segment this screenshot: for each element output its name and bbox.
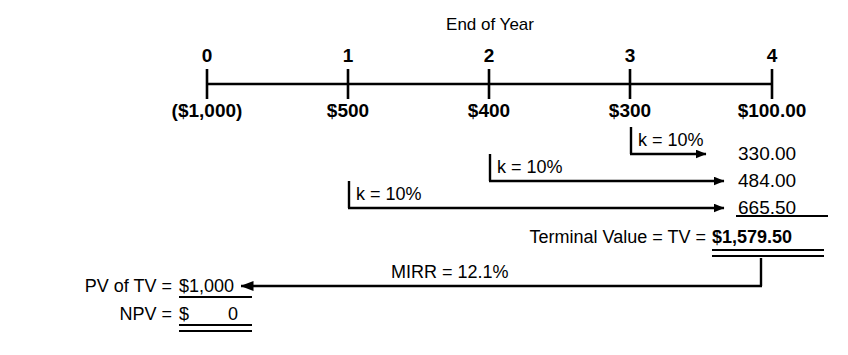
- npv-currency-symbol: $: [179, 305, 189, 323]
- year-label-3: 3: [625, 46, 636, 65]
- diagram-lines-layer: [0, 0, 848, 355]
- terminal-value-double-underline: [712, 250, 824, 256]
- cash-flow-year-0: ($1,000): [172, 101, 243, 120]
- year-label-1: 1: [343, 46, 354, 65]
- cash-flow-year-4: $100.00: [738, 101, 807, 120]
- mirr-label: MIRR = 12.1%: [391, 263, 509, 281]
- timeline-axis: [207, 69, 772, 99]
- rate-label-year-2: k = 10%: [497, 158, 563, 176]
- rate-label-year-3: k = 10%: [638, 131, 704, 149]
- year-label-2: 2: [484, 46, 495, 65]
- mirr-timeline-diagram: End of Year 0 1 2 3 4 ($1,000) $500 $400…: [0, 0, 848, 355]
- cash-flow-year-2: $400: [468, 101, 510, 120]
- terminal-value-label: Terminal Value = TV =: [530, 228, 706, 246]
- npv-double-underline: [179, 325, 252, 331]
- rate-label-year-1: k = 10%: [356, 185, 422, 203]
- npv-value: 0: [228, 305, 238, 323]
- year-label-4: 4: [767, 46, 778, 65]
- pv-of-tv-value: $1,000: [179, 277, 234, 295]
- future-value-from-year-3: 330.00: [738, 144, 796, 163]
- future-value-from-year-1: 665.50: [738, 198, 796, 217]
- year-label-0: 0: [202, 46, 213, 65]
- npv-label: NPV =: [119, 305, 172, 323]
- terminal-value-amount: $1,579.50: [712, 228, 792, 246]
- chart-title: End of Year: [446, 16, 534, 33]
- cash-flow-year-1: $500: [327, 101, 369, 120]
- cash-flow-year-3: $300: [609, 101, 651, 120]
- pv-of-tv-label: PV of TV =: [85, 277, 172, 295]
- future-value-from-year-2: 484.00: [738, 171, 796, 190]
